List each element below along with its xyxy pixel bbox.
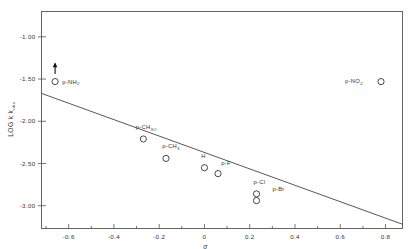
data-point-label: H <box>201 153 206 159</box>
y-tick-label: -3.00 <box>20 202 36 209</box>
data-point-label: p-Br <box>272 186 284 192</box>
x-tick-label: 0.4 <box>290 233 300 240</box>
x-tick-label: 0 <box>203 233 207 240</box>
x-tick-label: -0.6 <box>63 233 75 240</box>
plot-frame <box>42 12 403 229</box>
data-point-label-sub: 2 <box>360 81 363 86</box>
x-tick-label: 0.6 <box>335 233 345 240</box>
x-tick-label: 0.2 <box>245 233 255 240</box>
y-tick-label: -2.00 <box>20 117 36 124</box>
x-tick-label: -0.4 <box>108 233 120 240</box>
y-axis-title: LOG k kobs <box>7 102 16 137</box>
data-point-label: p-CH3O <box>136 124 157 132</box>
data-point-marker[interactable] <box>52 78 58 84</box>
data-point-label-sub: 2 <box>77 81 80 86</box>
data-point-label: p-NO2 <box>345 78 363 86</box>
data-point-label: p-Cl <box>254 179 266 185</box>
x-axis-title: σ <box>203 243 208 249</box>
data-point-marker[interactable] <box>253 198 259 204</box>
data-point-marker[interactable] <box>163 155 169 161</box>
data-point-label: p-F <box>221 160 231 166</box>
x-tick-label: -0.2 <box>153 233 165 240</box>
upper-limit-arrowhead <box>53 62 58 67</box>
data-point-marker[interactable] <box>378 78 384 84</box>
data-point-marker[interactable] <box>201 165 207 171</box>
data-point-label-sub: 3 <box>177 146 180 151</box>
data-point-label: p-CH3 <box>162 143 180 151</box>
data-point-label: p-NH2 <box>62 79 80 87</box>
scatter-plot-canvas: -0.6-0.4-0.200.20.40.60.8-1.00-1.50-2.00… <box>0 0 413 249</box>
y-axis-title-sub: obs <box>11 102 16 110</box>
data-point-marker[interactable] <box>253 191 259 197</box>
data-point-label-sub: 3O <box>151 127 158 132</box>
data-point-marker[interactable] <box>140 136 146 142</box>
y-tick-label: -1.00 <box>20 33 36 40</box>
x-tick-label: 0.8 <box>381 233 391 240</box>
y-axis-title-text: LOG k kobs <box>7 102 16 137</box>
data-point-marker[interactable] <box>215 171 221 177</box>
hammett-plot-figure: -0.6-0.4-0.200.20.40.60.8-1.00-1.50-2.00… <box>0 0 413 249</box>
y-tick-label: -1.50 <box>20 75 36 82</box>
y-tick-label: -2.50 <box>20 160 36 167</box>
